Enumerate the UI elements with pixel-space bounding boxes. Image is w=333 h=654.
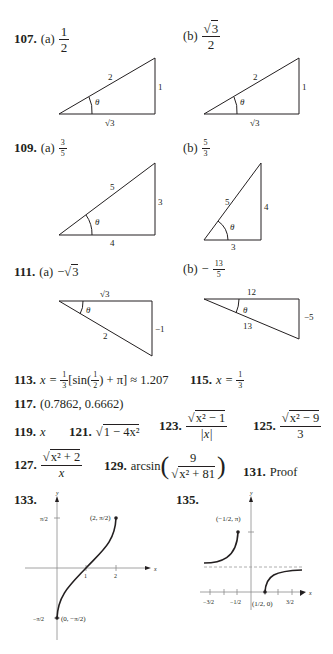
answer-129: 129. arcsin( 9 √x² + 81 )	[104, 451, 226, 481]
part-b-label: (b)	[183, 262, 198, 276]
point-label: (0, −π/2)	[61, 615, 86, 623]
answer-117: 117. (0.7862, 0.6662)	[14, 394, 123, 412]
curve-right	[265, 570, 302, 592]
sin-func: sin	[72, 373, 87, 387]
top-label: √3	[100, 289, 110, 299]
x-tick-label: −3/2	[203, 599, 214, 605]
answer-number: 131.	[243, 464, 266, 479]
fraction: 3 5	[59, 139, 67, 158]
answer-number: 117.	[14, 396, 36, 411]
numerator: 13	[213, 260, 225, 270]
denominator: 5	[215, 270, 223, 279]
answer-109-b: (b) 5 3	[183, 138, 210, 158]
answer-111: 111. (a) −√3	[14, 262, 78, 280]
y-axis-label: y	[249, 490, 253, 496]
answer-number: 123.	[159, 418, 182, 433]
answer-number: 125.	[253, 418, 276, 433]
part-b-label: (b)	[183, 141, 198, 155]
endpoint-dot	[263, 590, 267, 594]
radicand: 3	[211, 20, 219, 36]
denominator: 2	[206, 37, 217, 51]
answer-127: 127. √x² + 2 x	[14, 451, 82, 479]
hyp-label: 2	[108, 72, 113, 82]
answer-number: 119.	[14, 424, 36, 439]
x-tick-label: 3/2	[286, 599, 294, 605]
answer-number: 129.	[104, 458, 127, 473]
y-tick-label: π/2	[40, 516, 48, 522]
triangle-diagrams-107: 2 1 θ √3 2 1 θ √3	[0, 50, 333, 130]
opp-label: 1	[158, 82, 163, 92]
theta-label: θ	[86, 305, 91, 315]
denominator: 3	[202, 149, 210, 158]
endpoint-dot	[236, 530, 240, 534]
part-a-label: (a)	[41, 32, 55, 46]
fraction: √x² − 9 3	[280, 412, 321, 440]
part-a-label: (a)	[39, 265, 53, 279]
adj-label: 4	[110, 238, 115, 248]
fraction: √x² − 1 |x|	[186, 412, 227, 440]
endpoint-dot	[114, 516, 118, 520]
answer-109: 109. (a) 3 5	[14, 138, 67, 158]
answer-113: 113. x = 13[sin(12) + π] ≈ 1.207	[14, 370, 168, 390]
numerator: 1	[59, 25, 70, 40]
lhs: x =	[216, 373, 236, 387]
answer-125: 125. √x² − 9 3	[253, 412, 321, 440]
part-b-label: (b)	[183, 29, 198, 43]
answer-number: 113.	[14, 372, 36, 387]
adj-label: √3	[250, 118, 260, 128]
answer-value: √1 − 4x²	[96, 424, 140, 439]
answer-number: 121.	[69, 424, 92, 439]
arcsin-func: arcsin	[131, 459, 161, 473]
answer-131: 131. Proof	[243, 462, 298, 480]
x-tick-label: 1	[84, 573, 87, 579]
lhs: x =	[40, 373, 60, 387]
fraction: √3 2	[202, 22, 221, 51]
numerator: 5	[202, 139, 210, 149]
adj-label: √3	[105, 118, 115, 128]
fraction: 13 5	[213, 260, 225, 279]
fraction: 5 3	[202, 139, 210, 158]
hyp-label: 5	[225, 197, 230, 207]
point-label: (−1/2, π)	[216, 515, 241, 523]
answer-119: 119. x	[14, 422, 46, 440]
numerator: 3	[59, 139, 67, 149]
part-a-value: −√3	[57, 264, 78, 279]
part-a-label: (a)	[41, 141, 55, 155]
x-axis-arrow-icon	[145, 566, 151, 570]
answer-number: 109.	[14, 140, 37, 155]
denominator: 5	[59, 149, 67, 158]
theta-label: θ	[230, 222, 235, 232]
numerator: √3	[202, 22, 221, 37]
plus-pi: + π	[103, 373, 123, 387]
graph-135: y x (−1/2, π) (1/2, 0) −3/2 −1/2 3/2	[170, 490, 333, 654]
answer-value: Proof	[270, 465, 298, 479]
y-axis-label: y	[55, 490, 59, 496]
side-label: −5	[304, 312, 314, 322]
point-label: (2, π/2)	[90, 514, 111, 522]
theta-label: θ	[240, 97, 245, 107]
x-axis-label: x	[308, 590, 312, 596]
theta-label: θ	[243, 305, 248, 315]
graph-133: y x π/2 −π/2 1 2 (2, π/2) (0, −π/2)	[0, 490, 170, 654]
hyp-label: 13	[243, 321, 253, 331]
triangle-diagrams-109: 5 3 θ 4 5 4 θ 3	[0, 160, 333, 250]
y-axis-arrow-icon	[55, 496, 59, 502]
fraction: 13	[236, 371, 244, 390]
answer-value: (0.7862, 0.6662)	[40, 397, 123, 411]
curve-left	[204, 532, 238, 563]
hyp-label: 2	[253, 72, 258, 82]
y-tick-label: −π/2	[33, 616, 44, 622]
endpoint-dot	[55, 616, 59, 620]
theta-label: θ	[95, 217, 100, 227]
y-axis-arrow-icon	[249, 496, 253, 502]
answer-number: 107.	[14, 31, 37, 46]
minus-sign: −	[202, 262, 209, 276]
x-axis-label: x	[153, 566, 157, 572]
answer-115: 115. x = 13	[190, 370, 244, 390]
x-tick-label: 2	[114, 573, 117, 579]
fraction: √x² + 2 x	[41, 451, 82, 479]
x-axis-arrow-icon	[300, 590, 306, 596]
opp-label: 1	[302, 82, 307, 92]
answer-111-b: (b) − 13 5	[183, 259, 225, 279]
fraction: 9 √x² + 81	[169, 452, 217, 480]
